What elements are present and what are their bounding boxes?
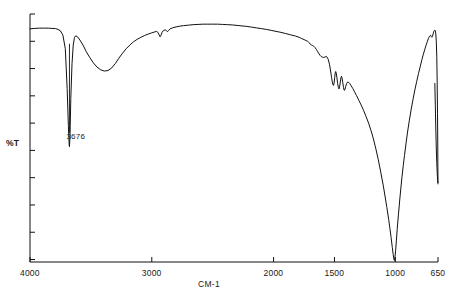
spectrum-trace-group: [30, 24, 438, 260]
x-axis-tick-label: 1500: [324, 268, 344, 278]
ir-spectrum-chart: 40003000200015001000650 CM-1 %T 3676: [0, 0, 451, 288]
x-axis-tick-marks: [30, 257, 438, 262]
x-axis-title: CM-1: [198, 279, 220, 288]
spectrum-trace-transmittance: [30, 24, 438, 260]
x-axis-tick-label: 2000: [264, 268, 284, 278]
x-axis-tick-label: 1000: [385, 268, 405, 278]
y-axis-tick-marks: [30, 14, 35, 260]
axes-group: [30, 14, 438, 262]
x-axis-tick-label: 650: [431, 268, 446, 278]
peak-label-3676: 3676: [66, 132, 85, 141]
x-axis-tick-label: 4000: [20, 268, 40, 278]
spectrum-plot-svg: [0, 0, 451, 288]
x-axis-tick-label: 3000: [142, 268, 162, 278]
y-axis-title: %T: [6, 138, 19, 148]
